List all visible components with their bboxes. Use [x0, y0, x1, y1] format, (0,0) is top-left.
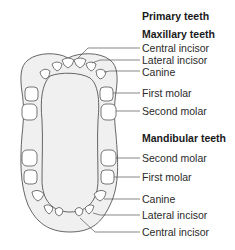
diagram-title: Primary teeth [142, 10, 209, 22]
label-lower-second-molar: Second molar [142, 152, 207, 164]
label-lower-first-molar: First molar [142, 171, 192, 183]
label-lower-lateral-incisor: Lateral incisor [142, 209, 207, 221]
mandibular-heading: Mandibular teeth [142, 132, 226, 144]
label-upper-central-incisor: Central incisor [142, 42, 209, 54]
label-upper-canine: Canine [142, 66, 175, 78]
label-lower-central-incisor: Central incisor [142, 226, 209, 238]
palate-outline [41, 73, 98, 212]
label-upper-lateral-incisor: Lateral incisor [142, 54, 207, 66]
label-upper-first-molar: First molar [142, 87, 192, 99]
label-lower-canine: Canine [142, 193, 175, 205]
label-upper-second-molar: Second molar [142, 105, 207, 117]
maxillary-heading: Maxillary teeth [142, 28, 215, 40]
